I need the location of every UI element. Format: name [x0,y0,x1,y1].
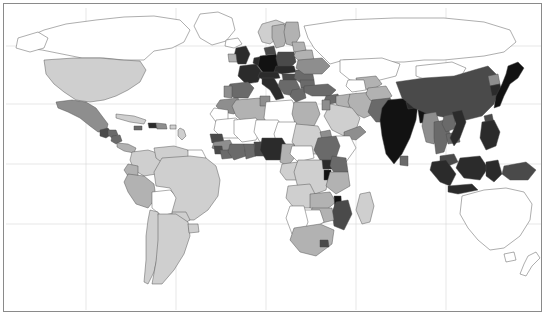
country-lesotho [320,240,329,247]
country-greece [290,88,306,102]
country-ireland [228,54,237,62]
country-usa [44,58,146,102]
country-mexico [56,100,108,132]
country-turkmenistan [346,80,366,92]
country-tanzania [326,172,350,194]
country-mozambique [332,200,352,230]
country-philippines [480,120,500,150]
country-java [448,184,478,194]
country-iceland [225,38,242,48]
world-choropleth-figure [0,0,546,319]
country-turkey [304,84,336,96]
country-papua-new-guinea [502,162,536,180]
country-puerto-rico [170,125,176,129]
country-madagascar [356,192,374,224]
country-ukraine [296,58,330,74]
country-sulawesi [486,160,502,182]
country-poland [276,52,296,68]
country-france [238,64,262,84]
country-uruguay [188,224,199,233]
country-baltics [292,42,306,52]
country-borneo [456,156,488,180]
country-dominican-republic [156,123,167,129]
country-jamaica [134,126,142,130]
country-haiti [148,123,157,128]
country-russia [304,18,516,64]
country-zambia [310,192,336,210]
country-lesser-antilles [178,128,186,140]
country-sri-lanka [400,156,408,166]
country-tasmania [504,252,516,262]
country-israel-jordan [322,100,330,110]
world-map-svg [4,4,543,313]
country-peru [124,174,156,208]
map-frame [3,3,542,312]
country-new-zealand [520,252,540,276]
country-portugal [224,86,232,98]
countries-layer [16,12,540,284]
country-costa-rica-panama [117,143,136,153]
country-nicaragua [111,135,122,144]
country-cuba [116,114,146,124]
country-australia [460,188,532,250]
country-car [290,146,314,162]
